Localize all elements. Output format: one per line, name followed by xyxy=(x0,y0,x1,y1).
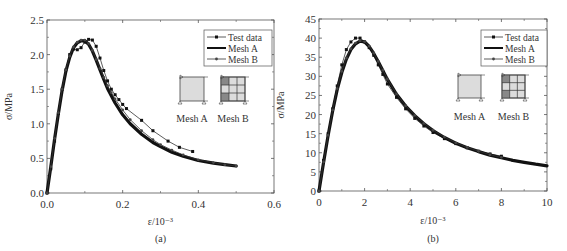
marker-square xyxy=(349,40,352,43)
marker-circle xyxy=(102,76,105,79)
marker-circle xyxy=(87,42,90,45)
marker-circle xyxy=(80,39,83,42)
x-axis-label: ε/10⁻³ xyxy=(420,215,445,226)
marker-circle xyxy=(197,158,200,161)
marker-square xyxy=(178,146,181,149)
legend-label: Mesh B xyxy=(505,55,535,65)
x-tick-label: 2 xyxy=(362,196,368,208)
chart-panel-b: 0246810051015202530354045ε/10⁻³σ/MPa(b)T… xyxy=(275,13,553,245)
marker-circle xyxy=(83,39,86,42)
marker-circle xyxy=(99,67,102,70)
marker-square xyxy=(354,37,357,40)
marker-circle xyxy=(235,165,238,168)
legend-marker-square xyxy=(492,36,495,39)
x-tick-label: 6 xyxy=(453,196,459,208)
marker-circle xyxy=(72,46,75,49)
support-icon xyxy=(243,101,247,104)
legend-marker-circle xyxy=(215,58,218,61)
support-icon xyxy=(219,101,223,104)
marker-square xyxy=(359,37,362,40)
marker-circle xyxy=(345,57,348,60)
inset-label: Mesh A xyxy=(454,111,486,122)
marker-square xyxy=(117,98,120,101)
y-tick-label: 45 xyxy=(305,13,317,25)
marker-circle xyxy=(68,55,71,58)
marker-circle xyxy=(318,190,321,193)
x-tick-label: 0.4 xyxy=(191,198,205,210)
y-tick-label: 1.5 xyxy=(30,83,44,95)
marker-circle xyxy=(354,42,357,45)
marker-circle xyxy=(95,58,98,61)
inset-mesh-b: Mesh B xyxy=(217,75,249,124)
marker-circle xyxy=(372,52,375,55)
y-tick-label: 2.5 xyxy=(30,14,44,26)
marker-square xyxy=(140,119,143,122)
marker-square xyxy=(91,39,94,42)
marker-circle xyxy=(443,136,446,139)
legend-label: Test data xyxy=(228,33,263,43)
support-icon xyxy=(202,101,206,104)
support-icon xyxy=(456,98,460,101)
x-tick-label: 4 xyxy=(407,196,413,208)
marker-circle xyxy=(140,129,143,132)
x-tick-label: 10 xyxy=(542,196,554,208)
figure: 0.00.20.40.60.00.51.01.52.02.5ε/10⁻³σ/MP… xyxy=(0,0,567,251)
mesh-element xyxy=(458,75,481,98)
marker-circle xyxy=(327,134,330,137)
y-tick-label: 25 xyxy=(305,89,317,101)
marker-square xyxy=(76,48,79,51)
y-tick-label: 20 xyxy=(305,109,317,121)
inset-label: Mesh B xyxy=(498,111,530,122)
marker-circle xyxy=(422,122,425,125)
support-icon xyxy=(523,98,527,101)
marker-circle xyxy=(57,111,60,114)
marker-circle xyxy=(432,129,435,132)
panel-caption: (a) xyxy=(155,233,166,245)
y-tick-label: 0.5 xyxy=(30,152,44,164)
marker-circle xyxy=(477,150,480,153)
marker-circle xyxy=(110,91,113,94)
marker-square xyxy=(125,107,128,110)
marker-circle xyxy=(363,40,366,43)
marker-circle xyxy=(152,138,155,141)
legend-label: Mesh A xyxy=(505,44,535,54)
marker-circle xyxy=(489,153,492,156)
marker-square xyxy=(191,150,194,153)
y-tick-label: 1.0 xyxy=(30,118,44,130)
marker-square xyxy=(95,45,98,48)
marker-circle xyxy=(106,84,109,87)
legend-label: Mesh B xyxy=(228,55,258,65)
inset-label: Mesh B xyxy=(217,113,249,124)
mesh-element xyxy=(180,77,204,101)
marker-circle xyxy=(340,70,343,73)
marker-circle xyxy=(454,141,457,144)
marker-circle xyxy=(114,97,117,100)
marker-circle xyxy=(76,41,79,44)
y-axis-label: σ/MPa xyxy=(275,91,286,119)
chart-panel-a: 0.00.20.40.60.00.51.01.52.02.5ε/10⁻³σ/MP… xyxy=(3,14,281,245)
marker-circle xyxy=(377,60,380,63)
marker-circle xyxy=(395,93,398,96)
x-tick-label: 0.2 xyxy=(116,198,130,210)
mesh-weak-cell xyxy=(221,93,229,101)
x-tick-label: 8 xyxy=(499,196,505,208)
marker-square xyxy=(345,48,348,51)
marker-square xyxy=(151,129,154,132)
y-tick-label: 15 xyxy=(305,128,317,140)
mesh-weak-cell xyxy=(502,90,510,98)
y-tick-label: 30 xyxy=(305,70,317,82)
marker-circle xyxy=(331,109,334,112)
marker-square xyxy=(167,140,170,143)
legend: Test dataMesh AMesh B xyxy=(204,30,272,66)
marker-circle xyxy=(53,137,56,140)
y-tick-label: 2.0 xyxy=(30,49,44,61)
marker-circle xyxy=(129,118,132,121)
marker-circle xyxy=(466,146,469,149)
marker-circle xyxy=(413,114,416,117)
marker-square xyxy=(114,93,117,96)
legend-marker-square xyxy=(215,36,218,39)
marker-circle xyxy=(500,156,503,159)
marker-circle xyxy=(386,78,389,81)
marker-circle xyxy=(212,161,215,164)
inset-mesh-a: Mesh A xyxy=(454,73,486,122)
